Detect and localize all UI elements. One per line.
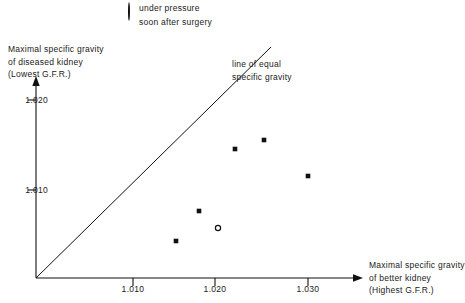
- data-point: [215, 225, 220, 230]
- series-soon-after-surgery: [174, 138, 311, 244]
- y-axis: [28, 76, 40, 278]
- x-axis: [36, 274, 363, 286]
- data-point: [197, 209, 202, 214]
- x-axis-arrowhead-icon: [353, 274, 363, 281]
- line-of-equal-specific-gravity: [36, 47, 271, 278]
- data-point: [262, 138, 267, 143]
- data-point: [233, 147, 238, 152]
- data-point: [306, 174, 311, 179]
- series-under-pressure: [215, 225, 220, 230]
- y-axis-arrowhead-icon: [32, 76, 39, 86]
- data-point: [174, 239, 179, 244]
